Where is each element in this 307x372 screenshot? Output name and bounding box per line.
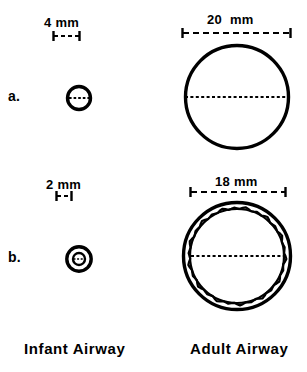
dimension-label-4mm: 4 mm bbox=[44, 16, 79, 29]
airway-comparison-figure: 4 mm 20 mm 2 mm 18 mm a. b. Infant Airwa… bbox=[0, 0, 307, 372]
row-label-a: a. bbox=[8, 89, 20, 103]
dimension-label-2mm: 2 mm bbox=[46, 178, 81, 191]
row-label-b: b. bbox=[8, 250, 21, 264]
dimension-bar-4mm bbox=[54, 31, 80, 41]
dimension-bar-2mm bbox=[57, 191, 72, 201]
column-label-adult-airway: Adult Airway bbox=[190, 341, 288, 356]
dimension-label-18mm: 18 mm bbox=[215, 175, 258, 188]
infant-airway-circle-normal bbox=[68, 87, 91, 110]
dimension-label-20mm: 20 mm bbox=[207, 13, 254, 26]
adult-airway-circle-edema bbox=[184, 203, 291, 310]
column-label-infant-airway: Infant Airway bbox=[24, 341, 125, 356]
dimension-bar-20mm bbox=[183, 28, 291, 38]
adult-airway-circle-normal bbox=[185, 46, 289, 149]
infant-airway-circle-edema bbox=[67, 247, 91, 271]
